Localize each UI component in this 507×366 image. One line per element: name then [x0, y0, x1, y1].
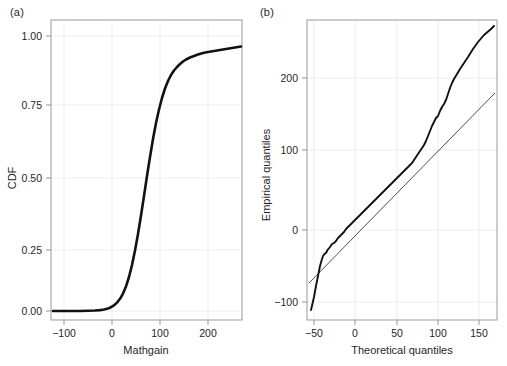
qq-reference-line [309, 93, 495, 283]
qq-y-axis-title: Empirical quantiles [260, 128, 272, 221]
cdf-y-axis-title: CDF [6, 166, 18, 189]
qq-data-curve [311, 26, 494, 310]
cdf-curve [53, 47, 241, 312]
cdf-x-axis-title: Mathgain [123, 344, 168, 356]
qq-y-tickmarks [302, 78, 307, 302]
cdf-ytick-2: 0.50 [22, 172, 43, 184]
cdf-xtick-3: 200 [199, 327, 217, 339]
cdf-xtick-1: 0 [109, 327, 115, 339]
panel-b-qqplot: (b) [252, 0, 507, 366]
cdf-ytick-1: 0.25 [22, 244, 43, 256]
cdf-xtick-0: −100 [52, 327, 76, 339]
cdf-x-tickmarks [64, 320, 208, 325]
cdf-ytick-0: 0.00 [22, 305, 43, 317]
qq-xtick-4: 150 [470, 327, 488, 339]
qq-ytick-0: −100 [274, 296, 298, 308]
qq-ytick-1: 0 [292, 224, 298, 236]
cdf-plot-svg: −100 0 100 200 0.00 0.25 0.50 0.75 1.00 … [0, 0, 252, 366]
qq-plot-frame [307, 20, 497, 320]
cdf-gridlines [51, 20, 242, 320]
qq-plot-svg: −50 0 50 100 150 −100 0 100 200 Theoreti… [252, 0, 507, 366]
cdf-y-tickmarks [46, 36, 51, 311]
qq-x-tickmarks [314, 320, 479, 325]
cdf-xtick-2: 100 [151, 327, 169, 339]
figure-container: (a) [0, 0, 507, 366]
cdf-ytick-3: 0.75 [22, 99, 43, 111]
qq-xtick-0: −50 [305, 327, 323, 339]
qq-xtick-3: 100 [429, 327, 447, 339]
qq-ytick-3: 200 [280, 72, 298, 84]
cdf-plot-frame [51, 20, 242, 320]
cdf-ytick-4: 1.00 [22, 30, 43, 42]
qq-ytick-2: 100 [280, 144, 298, 156]
qq-x-axis-title: Theoretical quantiles [351, 344, 453, 356]
panel-a-cdf: (a) [0, 0, 252, 366]
qq-xtick-2: 50 [391, 327, 403, 339]
qq-gridlines [307, 20, 497, 320]
qq-xtick-1: 0 [352, 327, 358, 339]
